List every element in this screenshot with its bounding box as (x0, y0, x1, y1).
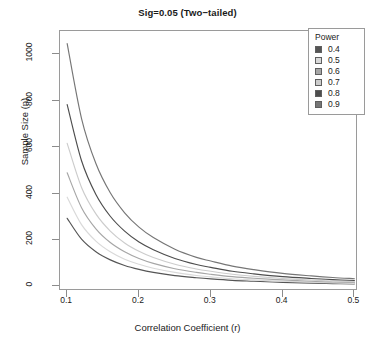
legend-item-label: 0.4 (328, 44, 340, 55)
legend-item[interactable]: 0.9 (313, 99, 360, 110)
legend-item-label: 0.9 (328, 99, 340, 110)
y-tick-label: 0 (24, 267, 34, 301)
legend-swatch-icon (315, 90, 322, 97)
legend-items: 0.40.50.60.70.80.9 (313, 44, 360, 110)
legend-item-label: 0.7 (328, 77, 340, 88)
legend-title: Power (315, 32, 360, 42)
y-tick-mark (52, 285, 59, 286)
y-tick-label: 200 (24, 221, 34, 255)
y-tick-mark (52, 193, 59, 194)
x-axis-label: Correlation Coefficient (r) (0, 322, 375, 333)
legend-item[interactable]: 0.5 (313, 55, 360, 66)
y-tick-mark (52, 146, 59, 147)
legend-item[interactable]: 0.7 (313, 77, 360, 88)
y-tick-label: 600 (24, 128, 34, 162)
legend-item[interactable]: 0.4 (313, 44, 360, 55)
y-tick-mark (52, 239, 59, 240)
legend-swatch-icon (315, 101, 322, 108)
x-tick-label: 0.3 (195, 295, 225, 305)
y-tick-mark (52, 53, 59, 54)
y-tick-label: 1000 (24, 35, 34, 69)
series-line-0.5 (67, 197, 354, 283)
series-line-0.6 (67, 173, 354, 283)
legend-item-label: 0.8 (328, 88, 340, 99)
legend-item-label: 0.5 (328, 55, 340, 66)
legend-swatch-icon (315, 79, 322, 86)
x-tick-label: 0.4 (267, 295, 297, 305)
legend-item-label: 0.6 (328, 66, 340, 77)
legend-swatch-icon (315, 46, 322, 53)
legend-swatch-icon (315, 68, 322, 75)
y-tick-mark (52, 100, 59, 101)
legend-item[interactable]: 0.6 (313, 66, 360, 77)
legend-item[interactable]: 0.8 (313, 88, 360, 99)
x-tick-label: 0.5 (338, 295, 368, 305)
x-tick-label: 0.2 (123, 295, 153, 305)
chart-title: Sig=0.05 (Two−tailed) (0, 7, 375, 18)
legend: Power 0.40.50.60.70.80.9 (308, 28, 365, 115)
chart-page: Sig=0.05 (Two−tailed) Sample Size (n) Co… (0, 0, 375, 354)
x-tick-label: 0.1 (51, 295, 81, 305)
legend-swatch-icon (315, 57, 322, 64)
y-tick-label: 400 (24, 175, 34, 209)
y-tick-label: 800 (24, 82, 34, 116)
